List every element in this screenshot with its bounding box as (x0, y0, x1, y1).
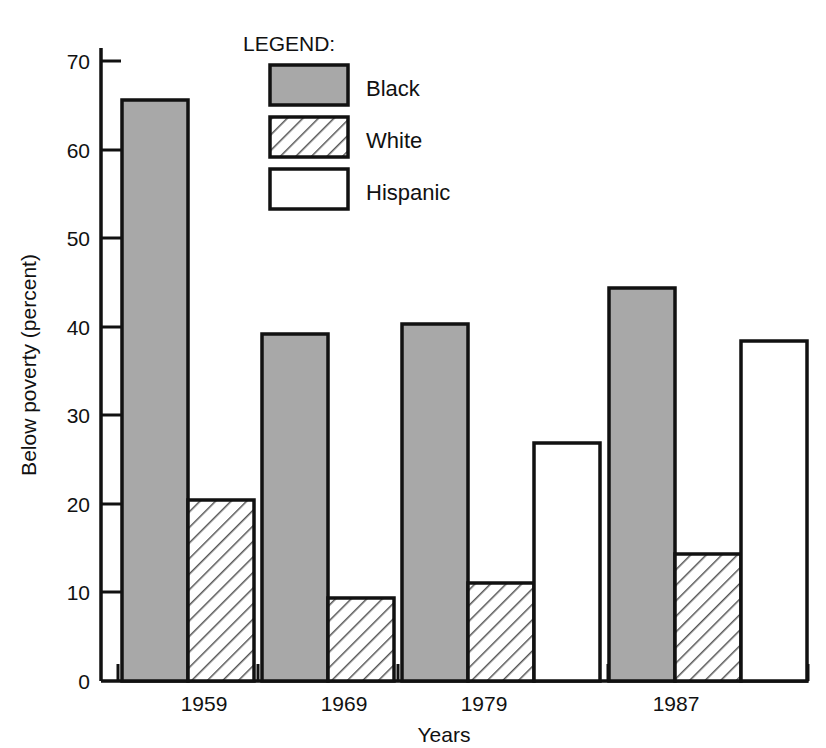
bar-1979-white (468, 583, 534, 681)
legend-label-hispanic: Hispanic (366, 180, 450, 205)
chart-canvas: 70 60 50 40 30 20 10 0 Below poverty (pe… (0, 0, 826, 748)
bar-1987-hispanic (741, 341, 807, 681)
legend-title: LEGEND: (243, 32, 335, 55)
bar-1987-black (609, 288, 675, 681)
bar-1979-black (402, 324, 468, 681)
y-tick-label-30: 30 (67, 404, 90, 427)
x-category-label-1959: 1959 (181, 692, 228, 715)
bar-1969-white (328, 598, 394, 681)
bar-1959-black (122, 100, 188, 681)
x-category-label-1969: 1969 (321, 692, 368, 715)
legend-swatch-black (270, 65, 348, 105)
y-axis-title: Below poverty (percent) (17, 254, 40, 476)
y-tick-label-20: 20 (67, 493, 90, 516)
y-tick-label-0: 0 (78, 670, 90, 693)
y-tick-label-70: 70 (67, 50, 90, 73)
legend-label-black: Black (366, 76, 421, 101)
legend-swatch-hispanic (270, 169, 348, 209)
y-tick-label-40: 40 (67, 316, 90, 339)
bar-1979-hispanic (534, 443, 600, 681)
legend-label-white: White (366, 128, 422, 153)
x-category-label-1987: 1987 (653, 692, 700, 715)
bar-1959-white (188, 500, 254, 681)
bar-1987-white (675, 554, 741, 681)
y-tick-label-50: 50 (67, 227, 90, 250)
x-category-label-1979: 1979 (461, 692, 508, 715)
legend-swatch-white (270, 117, 348, 157)
bar-1969-black (262, 334, 328, 681)
x-axis-title: Years (418, 723, 471, 746)
y-tick-label-10: 10 (67, 581, 90, 604)
y-tick-label-60: 60 (67, 139, 90, 162)
bar-chart: 70 60 50 40 30 20 10 0 Below poverty (pe… (0, 0, 826, 748)
